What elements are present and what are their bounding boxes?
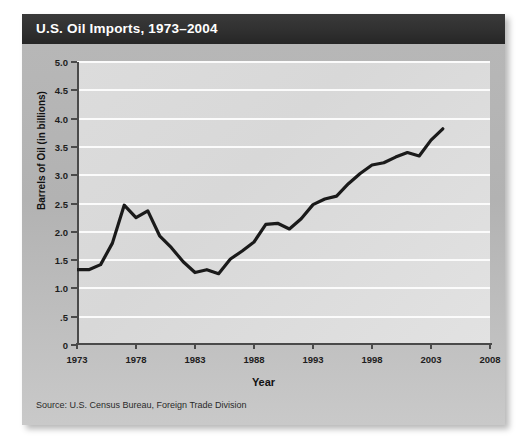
x-axis-tick-label: 1998 xyxy=(361,354,382,365)
y-axis-tick-label: .5 xyxy=(60,311,68,322)
data-line-series xyxy=(77,62,490,345)
page-title: U.S. Oil Imports, 1973–2004 xyxy=(36,21,218,36)
y-axis-tick-label: 1.0 xyxy=(55,283,68,294)
y-axis-tick-label: 5.0 xyxy=(55,57,68,68)
x-axis-tick-label: 1988 xyxy=(243,354,264,365)
x-axis-tick-label: 2003 xyxy=(420,354,441,365)
x-axis-tick-label: 2008 xyxy=(479,354,500,365)
y-axis-tick-label: 4.0 xyxy=(55,113,68,124)
y-axis-tick-label: 2.5 xyxy=(55,198,68,209)
y-axis-tick-label: 3.0 xyxy=(55,170,68,181)
x-axis-tick-label: 1978 xyxy=(125,354,146,365)
x-axis-title: Year xyxy=(22,376,505,388)
x-axis-tick-label: 1973 xyxy=(66,354,87,365)
y-axis-tick-label: 4.5 xyxy=(55,85,68,96)
x-axis-tick-label: 1993 xyxy=(302,354,323,365)
y-axis-title: Barrels of Oil (in billions) xyxy=(36,91,47,210)
y-axis-tick-label: 2.0 xyxy=(55,226,68,237)
y-axis-tick-label: 3.5 xyxy=(55,141,68,152)
source-note: Source: U.S. Census Bureau, Foreign Trad… xyxy=(36,400,247,410)
chart-screenshot: U.S. Oil Imports, 1973–2004 Barrels of O… xyxy=(0,0,527,446)
chart-title-bar: U.S. Oil Imports, 1973–2004 xyxy=(22,14,505,44)
x-axis-tick-label: 1983 xyxy=(184,354,205,365)
chart-panel: U.S. Oil Imports, 1973–2004 Barrels of O… xyxy=(22,14,505,425)
plot-frame: 0.51.01.52.02.53.03.54.04.55.0 197319781… xyxy=(77,62,490,361)
y-axis-tick-label: 0 xyxy=(63,340,68,351)
y-axis-tick-label: 1.5 xyxy=(55,255,68,266)
